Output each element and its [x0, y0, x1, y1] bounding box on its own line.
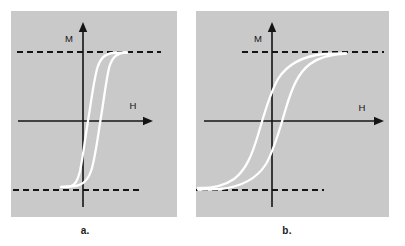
y-axis-label-b: M [254, 33, 262, 44]
loop-branch-descending-a [61, 53, 127, 188]
hysteresis-chart-a: M H [11, 11, 177, 217]
y-axis-label-a: M [65, 33, 73, 44]
loop-branch-ascending-a [66, 53, 127, 188]
x-axis-label-a: H [130, 100, 137, 111]
y-axis-arrowhead-a [79, 22, 87, 32]
x-axis-arrowhead-a [143, 117, 153, 125]
figure-root: M H M H a. b. [0, 0, 405, 246]
caption-panel-b: b. [267, 225, 307, 236]
x-axis-arrowhead-b [374, 117, 384, 125]
caption-panel-a: a. [65, 225, 105, 236]
y-axis-arrowhead-b [268, 22, 276, 32]
x-axis-label-b: H [359, 102, 366, 113]
hysteresis-chart-b: M H [196, 11, 389, 217]
panel-a: M H [11, 11, 177, 217]
panel-b: M H [196, 11, 389, 217]
